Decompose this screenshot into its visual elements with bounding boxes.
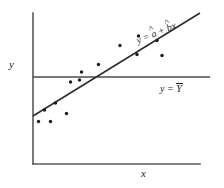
mean-eq-equals: = — [165, 83, 177, 94]
scatter-point — [160, 54, 163, 57]
scatter-point — [43, 108, 46, 111]
scatter-point — [78, 78, 81, 81]
scatter-point — [54, 101, 57, 104]
scatter-point — [80, 70, 83, 73]
mean-line-equation-label: y = Y — [160, 84, 182, 95]
scatter-point — [65, 112, 68, 115]
scatter-point — [69, 80, 72, 83]
plot-canvas — [0, 0, 224, 188]
scatter-point — [37, 120, 40, 123]
x-axis-label: x — [141, 168, 146, 179]
scatter-point — [135, 53, 138, 56]
scatter-point — [118, 44, 121, 47]
scatter-point — [49, 120, 52, 123]
scatter-point — [97, 63, 100, 66]
scatter-point — [155, 39, 158, 42]
mean-eq-symbol: Y — [176, 84, 182, 95]
y-axis-label: y — [9, 59, 14, 70]
regression-figure: y x y = a + bx y = Y — [0, 0, 224, 188]
